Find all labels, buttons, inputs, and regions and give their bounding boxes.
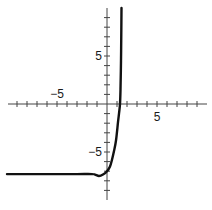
y-tick-label: 5 bbox=[95, 49, 102, 63]
function-plot: −555−5 bbox=[0, 0, 212, 210]
x-tick-label: 5 bbox=[154, 110, 161, 124]
curve-layer bbox=[7, 8, 122, 176]
y-tick-label: −5 bbox=[88, 145, 102, 159]
x-tick-label: −5 bbox=[50, 87, 64, 101]
function-curve bbox=[7, 8, 122, 176]
